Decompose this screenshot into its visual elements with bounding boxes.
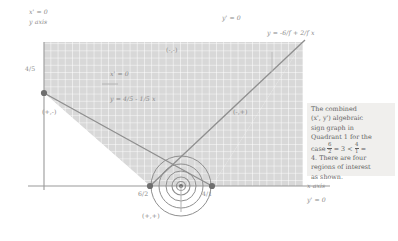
figure-canvas: x' = 0 y axis y' = 0 y = -6/f + 2/f x 4/… [0,0,398,241]
region-label-lower: (+,+) [142,212,160,219]
caption-line-5-mid: = 3 < [332,145,355,153]
caption-line-1: The combined [311,105,357,113]
label-x-prime-zero-top: x' = 0 [29,8,48,15]
caption-line-3: sign graph in [311,124,354,132]
label-y-prime-zero-top: y' = 0 [222,14,241,21]
dot-y-intercept [41,90,47,96]
caption-line-2: (x', y') algebraic [311,114,363,122]
region-label-left: (+,-) [42,108,57,115]
tick-label-x-right: 4/1 [202,190,212,197]
label-line-two: y = -6/f + 2/f x [267,29,315,36]
region-label-upper: (-,-) [166,46,177,53]
label-y-intercept: 4/5 [25,65,35,72]
caption-line-7: regions of interest [311,163,371,171]
caption-line-8: as shown. [311,173,343,181]
label-y-axis: y axis [29,18,47,25]
region-label-right: (-,+) [233,108,248,115]
caption-block: The combined (x', y') algebraic sign gra… [311,105,393,182]
tick-label-x-left: 6/2 [138,190,148,197]
caption-line-6: 4. There are four [311,154,366,162]
caption-line-5-post: = [359,145,366,153]
caption-line-5-pre: case [311,145,327,153]
dot-x-left [147,183,153,189]
label-line-one: y = 4/5 - 1/5 x [110,95,156,102]
caption-line-4: Quadrant 1 for the [311,133,372,141]
label-x-prime-zero-inner: x' = 0 [110,70,129,77]
label-y-prime-zero-bottom: y' = 0 [307,196,326,203]
dot-x-right [209,183,215,189]
label-x-axis: x axis [307,182,325,189]
